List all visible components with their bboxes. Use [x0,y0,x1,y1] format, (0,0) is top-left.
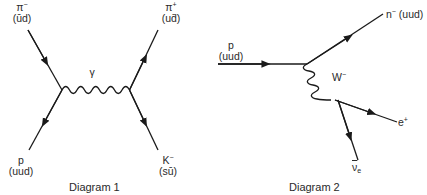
caption-diagram-2: Diagram 2 [289,181,340,193]
label-pi-plus: π+ (ud̄) [156,2,186,24]
neutron-arrow-icon [307,37,349,64]
label-proton-d1: p (uud) [5,155,37,177]
w-boson-propagator [303,64,331,100]
feynman-diagrams-canvas [0,0,427,195]
antineutrino-arrow-icon [338,100,350,137]
diagram-1 [28,30,158,150]
pi-minus-arrow-icon [28,30,46,62]
label-positron: e+ [398,117,408,128]
label-photon: γ [86,67,98,78]
diagram-2 [218,14,397,160]
label-pi-minus: π− (ūd) [8,2,36,24]
label-proton-d2: p (uud) [216,40,246,62]
caption-diagram-1: Diagram 1 [69,181,120,193]
kaon-minus-arrow-icon [130,90,146,123]
pi-plus-arrow-icon [130,58,146,90]
photon-propagator [62,87,130,94]
label-neutron: n− (uud) [386,9,423,20]
proton-arrow-icon [44,90,62,123]
label-antineutrino: νe [352,162,361,173]
label-w-boson: W− [332,72,346,83]
label-kaon-minus: K− (sū) [154,155,182,177]
